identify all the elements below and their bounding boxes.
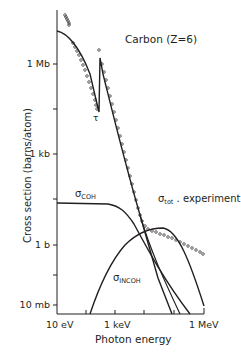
tau-label: τ — [93, 113, 98, 123]
sigma-coh-curve — [57, 203, 190, 314]
sigma-tot-label: σtot . experiment — [158, 193, 240, 206]
x-tick-1mev: 1 MeV — [189, 319, 219, 330]
y-axis-title: Cross section (barns/atom) — [22, 101, 33, 251]
axes — [53, 10, 204, 314]
chart-title: Carbon (Z=6) — [125, 33, 197, 45]
x-axis-title: Photon energy — [95, 333, 172, 345]
sigma-coh-label: σCOH — [75, 188, 96, 201]
x-tick-1kev: 1 keV — [104, 319, 131, 330]
experiment-data-points — [64, 14, 205, 256]
sigma-incoh-label: σINCOH — [113, 272, 141, 285]
x-tick-10ev: 10 eV — [46, 319, 73, 330]
y-tick-1mb: 1 Mb — [0, 58, 50, 69]
tau-high-energy-line — [140, 215, 180, 314]
y-tick-10mb: 10 mb — [0, 299, 50, 310]
